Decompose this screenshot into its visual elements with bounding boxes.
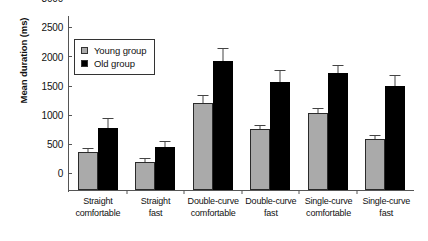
x-axis-label: Double-curvefast xyxy=(242,196,300,219)
bar-group xyxy=(242,16,300,190)
bar-old xyxy=(98,128,118,190)
y-axis-tick: 3000 xyxy=(42,0,68,7)
bar-slot xyxy=(328,16,348,190)
error-bar xyxy=(87,149,88,151)
error-bar-cap xyxy=(102,118,113,119)
bar-young xyxy=(193,103,213,191)
error-bar-cap xyxy=(370,135,381,136)
bar-old xyxy=(155,147,175,190)
y-axis-tick: 2500 xyxy=(42,18,68,36)
bar-young xyxy=(135,162,155,190)
error-bar xyxy=(202,96,203,102)
bar-slot xyxy=(155,16,175,190)
x-axis-label: Straightfast xyxy=(127,196,185,219)
x-axis-tick-mark xyxy=(299,190,300,194)
legend-swatch-old-icon xyxy=(81,60,88,67)
y-axis-tick-label: 3000 xyxy=(42,0,68,4)
y-axis-tick-label: 1000 xyxy=(42,110,68,121)
error-bar xyxy=(222,49,223,61)
error-bar-cap xyxy=(255,125,266,126)
error-bar xyxy=(317,109,318,113)
y-axis-tick: 1500 xyxy=(42,77,68,95)
x-axis-label: Single-curvecomfortable xyxy=(300,196,358,219)
x-axis-label: Single-curvefast xyxy=(357,196,415,219)
error-bar xyxy=(165,142,166,147)
legend-item-young: Young group xyxy=(81,44,146,57)
bar-group xyxy=(299,16,357,190)
x-axis-labels: StraightcomfortableStraightfastDouble-cu… xyxy=(69,196,415,219)
bar-young xyxy=(308,113,328,190)
x-axis-tick-mark xyxy=(241,190,242,194)
y-axis-tick-label: 2500 xyxy=(42,22,68,33)
error-bar xyxy=(337,66,338,74)
error-bar-cap xyxy=(390,75,401,76)
legend-label-old: Old group xyxy=(94,58,135,69)
bar-chart-figure: Mean duration (ms) 050010001500200025003… xyxy=(0,0,428,241)
bar-slot xyxy=(193,16,213,190)
x-axis-label: Double-curvecomfortable xyxy=(184,196,242,219)
y-axis-tick: 500 xyxy=(47,135,68,153)
error-bar-cap xyxy=(332,65,343,66)
y-axis-title: Mean duration (ms) xyxy=(18,0,29,136)
legend-swatch-young-icon xyxy=(81,47,88,54)
error-bar-cap xyxy=(217,48,228,49)
error-bar xyxy=(395,76,396,85)
y-axis-tick-label: 0 xyxy=(58,168,68,179)
bar-slot xyxy=(308,16,328,190)
bar-slot xyxy=(213,16,233,190)
x-axis-label: Straightcomfortable xyxy=(69,196,127,219)
bar-group xyxy=(184,16,242,190)
error-bar-cap xyxy=(140,158,151,159)
x-axis-tick-mark xyxy=(184,190,185,194)
legend-label-young: Young group xyxy=(94,45,146,56)
bar-slot xyxy=(385,16,405,190)
error-bar-cap xyxy=(275,70,286,71)
y-axis-tick-label: 2000 xyxy=(42,52,68,63)
bar-old xyxy=(270,82,290,191)
bar-young xyxy=(365,139,385,190)
y-axis-tick-label: 1500 xyxy=(42,81,68,92)
y-axis-tick-label: 500 xyxy=(47,139,68,150)
x-axis-tick-mark xyxy=(126,190,127,194)
bar-old xyxy=(385,86,405,190)
error-bar-cap xyxy=(82,148,93,149)
error-bar-cap xyxy=(197,95,208,96)
y-axis-tick: 2000 xyxy=(42,47,68,65)
y-axis-tick: 0 xyxy=(58,164,68,182)
error-bar xyxy=(280,71,281,82)
error-bar xyxy=(145,159,146,163)
error-bar xyxy=(260,126,261,130)
bar-young xyxy=(78,152,98,191)
bar-group xyxy=(357,16,415,190)
bar-slot xyxy=(365,16,385,190)
legend-item-old: Old group xyxy=(81,57,146,70)
error-bar-cap xyxy=(312,108,323,109)
y-axis-tick: 1000 xyxy=(42,106,68,124)
chart-legend: Young group Old group xyxy=(74,39,155,75)
x-axis-tick-mark xyxy=(356,190,357,194)
bar-slot xyxy=(250,16,270,190)
error-bar xyxy=(375,136,376,139)
error-bar xyxy=(107,119,108,128)
error-bar-cap xyxy=(160,141,171,142)
bar-old xyxy=(328,73,348,190)
bar-slot xyxy=(270,16,290,190)
bar-old xyxy=(213,61,233,190)
bar-young xyxy=(250,129,270,190)
